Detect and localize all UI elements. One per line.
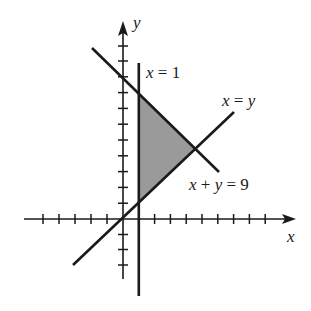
- shaded-region: [139, 93, 194, 204]
- y-axis-label: y: [131, 13, 141, 32]
- label-x-equals-1: x = 1: [145, 63, 180, 82]
- x-axis-label: x: [286, 227, 295, 246]
- diagram-figure: y x x = 1 x = y x + y = 9: [0, 0, 311, 311]
- label-x-plus-y-equals-9: x + y = 9: [188, 175, 249, 194]
- coordinate-plane: y x x = 1 x = y x + y = 9: [0, 0, 311, 311]
- label-x-equals-y: x = y: [221, 91, 256, 110]
